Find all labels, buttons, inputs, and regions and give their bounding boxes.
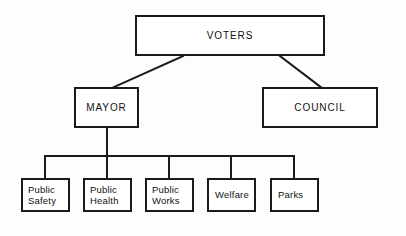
node-council[interactable]: COUNCIL (262, 87, 378, 128)
node-public-safety-label: Public Safety (28, 184, 68, 206)
edge-voters-to-council (280, 56, 322, 88)
node-public-health-label: Public Health (90, 184, 130, 206)
node-welfare[interactable]: Welfare (207, 178, 256, 212)
node-mayor[interactable]: MAYOR (74, 87, 139, 128)
node-public-safety[interactable]: Public Safety (21, 178, 70, 212)
node-mayor-label: MAYOR (76, 102, 137, 114)
node-public-health[interactable]: Public Health (83, 178, 132, 212)
node-welfare-label: Welfare (214, 189, 254, 200)
org-chart-diagram: VOTERS MAYOR COUNCIL Public Safety Publi… (0, 0, 406, 236)
edge-voters-to-mayor (112, 56, 183, 88)
node-voters[interactable]: VOTERS (135, 15, 325, 56)
node-public-works-label: Public Works (152, 184, 192, 206)
node-parks[interactable]: Parks (270, 178, 319, 212)
node-voters-label: VOTERS (137, 30, 323, 42)
node-parks-label: Parks (277, 189, 317, 200)
node-council-label: COUNCIL (264, 102, 376, 114)
node-public-works[interactable]: Public Works (145, 178, 194, 212)
